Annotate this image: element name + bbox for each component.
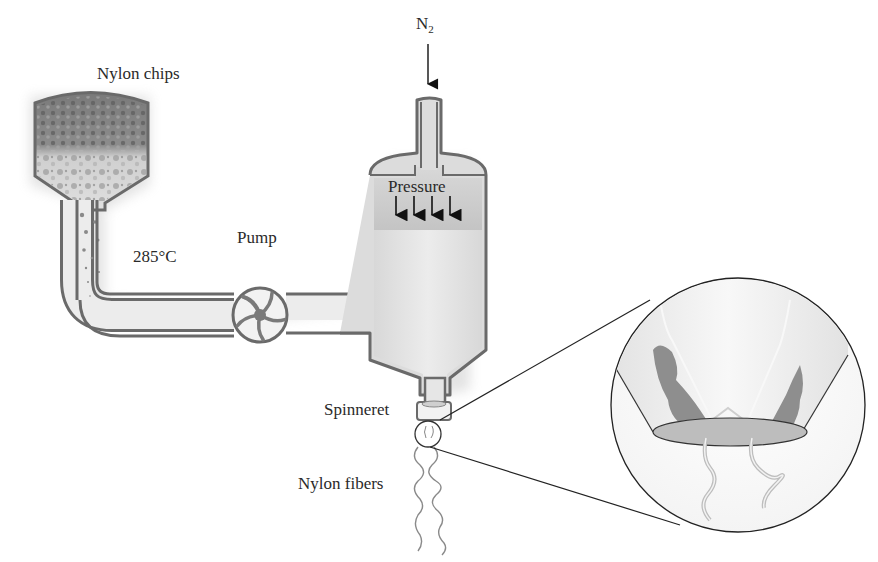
pressure-label: Pressure — [388, 177, 446, 197]
nylon-fibers-label: Nylon fibers — [298, 474, 383, 494]
pump-label: Pump — [237, 228, 277, 248]
magnify-circle — [415, 421, 441, 447]
melt-spinning-diagram — [0, 0, 878, 562]
nylon-fibers — [414, 447, 445, 555]
nitrogen-label: N2 — [416, 14, 434, 35]
pump — [233, 288, 287, 342]
nylon-chips-label: Nylon chips — [97, 64, 180, 84]
nitrogen-subscript: 2 — [428, 23, 434, 35]
pressure-vessel — [340, 98, 486, 395]
temperature-label: 285°C — [133, 247, 177, 267]
nitrogen-symbol: N — [416, 14, 428, 33]
magnified-view — [608, 278, 865, 532]
spinneret-label: Spinneret — [324, 400, 389, 420]
